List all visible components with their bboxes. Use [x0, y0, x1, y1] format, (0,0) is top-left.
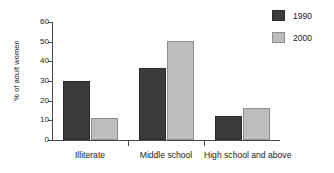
x-axis-category-label: Middle school	[128, 150, 204, 160]
legend-item-2000: 2000	[272, 32, 332, 43]
dark-gray-swatch	[272, 10, 285, 21]
y-axis-tick: 30	[52, 81, 53, 82]
y-axis-tick-label: 20	[40, 96, 49, 105]
x-axis-line	[52, 140, 280, 141]
bar-1990-illiterate	[63, 81, 90, 140]
y-axis-tick: 0	[52, 140, 53, 141]
y-axis-tick-label: 40	[40, 56, 49, 65]
x-axis-separator-tick	[204, 141, 205, 146]
y-axis-tick-label: 0	[45, 135, 49, 144]
bar-1990-high-school-and-above	[215, 116, 242, 140]
y-axis-tick: 60	[52, 22, 53, 23]
y-axis-tick: 20	[52, 101, 53, 102]
y-axis-tick-label: 60	[40, 17, 49, 26]
x-axis-separator-tick	[128, 141, 129, 146]
y-axis-tick: 50	[52, 42, 53, 43]
x-axis-category-label: Illiterate	[52, 150, 128, 160]
bar-1990-middle-school	[139, 68, 166, 140]
plot-area: 0102030405060 IlliterateMiddle schoolHig…	[52, 22, 280, 141]
bar-2000-illiterate	[91, 118, 118, 140]
y-axis-label: % of adult women	[12, 19, 21, 123]
light-gray-swatch	[272, 32, 285, 43]
legend-item-1990: 1990	[272, 10, 332, 21]
bar-2000-high-school-and-above	[243, 108, 270, 140]
bar-2000-middle-school	[167, 41, 194, 140]
x-axis-category-label: High school and above	[204, 150, 280, 160]
legend-item-label: 2000	[293, 33, 312, 43]
y-axis-tick-label: 50	[40, 37, 49, 46]
y-axis-tick: 40	[52, 61, 53, 62]
bar-chart-figure: % of adult women 0102030405060 Illiterat…	[0, 0, 334, 173]
y-axis-tick: 10	[52, 120, 53, 121]
legend-item-label: 1990	[293, 11, 312, 21]
chart-legend: 19902000	[272, 10, 332, 54]
y-axis-tick-label: 30	[40, 76, 49, 85]
y-axis-tick-label: 10	[40, 115, 49, 124]
